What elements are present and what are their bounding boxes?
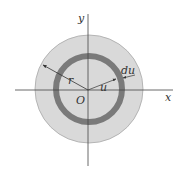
u-label: u [100,81,107,94]
outer-disk [35,35,143,143]
du-label: du [121,64,135,77]
diagram-canvas: y x O r u du [0,0,187,172]
r-label: r [68,74,74,87]
annulus-diagram: y x O r u du [0,0,187,172]
origin-label: O [76,94,85,107]
x-axis-label: x [165,91,172,104]
y-axis-label: y [77,12,85,25]
